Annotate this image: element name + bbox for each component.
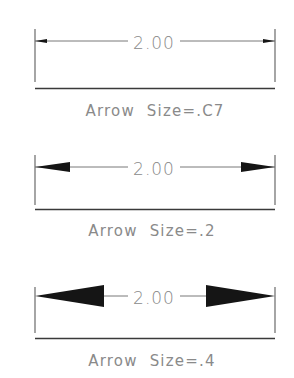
dimension-panel-2: 2.00 Arrow Size=.2 bbox=[35, 155, 275, 240]
arrow-size-label: Arrow Size=.2 bbox=[88, 222, 215, 240]
arrow-size-label: Arrow Size=.4 bbox=[88, 352, 215, 370]
dimension-value: 2.00 bbox=[133, 33, 175, 53]
left-arrowhead-icon bbox=[35, 285, 104, 307]
arrow-size-label: Arrow Size=.C7 bbox=[85, 102, 224, 120]
dimension-panel-3: 2.00 Arrow Size=.4 bbox=[35, 285, 275, 370]
left-arrowhead-icon bbox=[35, 39, 47, 43]
dimension-value: 2.00 bbox=[133, 288, 175, 308]
dimension-panel-1: 2.00 Arrow Size=.C7 bbox=[35, 29, 275, 120]
left-arrowhead-icon bbox=[35, 162, 70, 172]
dimension-value: 2.00 bbox=[133, 159, 175, 179]
right-arrowhead-icon bbox=[241, 162, 275, 172]
right-arrowhead-icon bbox=[206, 285, 275, 307]
right-arrowhead-icon bbox=[263, 39, 275, 43]
dimension-diagram: 2.00 Arrow Size=.C7 2.00 Arrow Size=.2 2… bbox=[0, 0, 294, 378]
